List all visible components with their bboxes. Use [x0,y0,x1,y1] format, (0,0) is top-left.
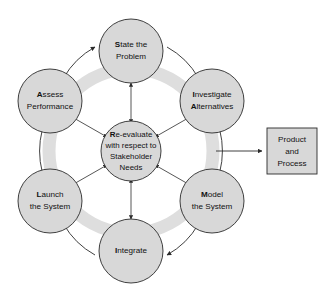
output-box-line1: Product [278,135,307,144]
node-model-the-system[interactable]: Model the System [180,169,244,233]
node-state-the-problem[interactable]: State the Problem [99,19,163,83]
svg-text:State the: State the [115,40,148,49]
node-launch-the-system[interactable]: Launch the System [18,169,82,233]
center-line2: with respect to [105,141,157,150]
node-integrate[interactable]: Integrate [99,219,163,283]
node-integrate-line1: ntegrate [117,246,147,255]
node-assess-line1: ssess [43,90,64,99]
svg-text:Model: Model [201,190,223,199]
svg-text:Integrate: Integrate [115,246,147,255]
systems-engineering-cycle-diagram: State the Problem Investigate Alternativ… [0,0,326,303]
spoke-center-launch [72,165,107,185]
output-box-line2: and [285,147,299,156]
svg-text:Investigate: Investigate [192,90,232,99]
node-investigate-line1: nvestigate [195,90,232,99]
spoke-center-investigate [155,117,190,137]
output-box-line3: Process [277,159,306,168]
diagram-canvas: State the Problem Investigate Alternativ… [0,0,326,303]
node-model-line2: the System [192,202,233,211]
node-re-evaluate-center[interactable]: Re-evaluate with respect to Stakeholder … [101,121,161,181]
svg-text:Assess: Assess [37,90,64,99]
svg-text:Alternatives: Alternatives [191,102,234,111]
spoke-center-model [155,165,190,185]
node-model-line1: odel [208,190,224,199]
node-launch-line1: aunch [41,190,63,199]
center-line1: e-evaluate [115,130,152,139]
node-launch-line2: the System [30,202,71,211]
center-line4: Needs [120,163,143,172]
spoke-center-assess [72,117,107,137]
node-investigate-line2: lternatives [196,102,233,111]
node-state-line1: tate the [120,40,147,49]
node-assess-performance[interactable]: Assess Performance [18,69,82,133]
node-state-line2: Problem [116,52,146,61]
node-assess-line2: Performance [27,102,74,111]
center-line3: Stakeholder [110,152,152,161]
output-box-product-and-process[interactable]: Product and Process [267,128,317,174]
svg-text:Re-evaluate: Re-evaluate [110,130,153,139]
svg-text:Launch: Launch [36,190,63,199]
node-investigate-alternatives[interactable]: Investigate Alternatives [180,69,244,133]
